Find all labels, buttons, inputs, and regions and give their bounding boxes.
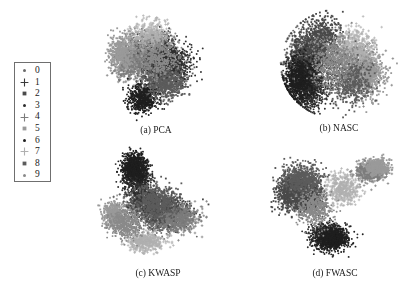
legend-item-7: 7 xyxy=(15,146,50,158)
caption-pca: (a) PCA xyxy=(92,125,220,135)
legend-marker-dot-icon xyxy=(18,65,31,76)
legend-item-0: 0 xyxy=(15,65,50,77)
scatter-plot-nasc xyxy=(276,2,402,126)
legend-label: 1 xyxy=(35,78,40,88)
legend-marker-square-icon xyxy=(18,88,31,99)
class-legend: 0123456789 xyxy=(14,62,51,182)
legend-label: 6 xyxy=(35,136,40,146)
scatter-plot-pca xyxy=(92,2,220,126)
legend-item-1: 1 xyxy=(15,77,50,89)
scatter-canvas-pca xyxy=(92,2,220,126)
scatter-plot-fwasc xyxy=(268,142,402,266)
caption-nasc: (b) NASC xyxy=(276,123,402,133)
scatter-plot-kwasp xyxy=(92,142,224,266)
scatter-canvas-kwasp xyxy=(92,142,224,266)
legend-marker-plus-icon xyxy=(18,146,31,157)
legend-label: 9 xyxy=(35,170,40,180)
scatter-canvas-fwasc xyxy=(268,142,402,266)
legend-marker-square-icon xyxy=(18,158,31,169)
legend-label: 8 xyxy=(35,159,40,169)
legend-item-6: 6 xyxy=(15,135,50,147)
legend-item-3: 3 xyxy=(15,100,50,112)
legend-item-2: 2 xyxy=(15,88,50,100)
legend-label: 0 xyxy=(35,66,40,76)
legend-label: 5 xyxy=(35,124,40,134)
legend-label: 2 xyxy=(35,89,40,99)
legend-marker-square-icon xyxy=(18,123,31,134)
legend-label: 7 xyxy=(35,147,40,157)
legend-item-5: 5 xyxy=(15,123,50,135)
legend-marker-plus-icon xyxy=(18,77,31,88)
legend-marker-dot-icon xyxy=(18,135,31,146)
caption-kwasp: (c) KWASP xyxy=(92,268,224,278)
legend-item-4: 4 xyxy=(15,111,50,123)
legend-label: 3 xyxy=(35,101,40,111)
legend-marker-plus-icon xyxy=(18,112,31,123)
legend-marker-dot-icon xyxy=(18,170,31,181)
legend-label: 4 xyxy=(35,112,40,122)
scatter-canvas-nasc xyxy=(276,2,402,126)
figure-panel: 0123456789 (a) PCA (b) NASC (c) KWASP (d… xyxy=(0,0,402,289)
legend-item-8: 8 xyxy=(15,158,50,170)
caption-fwasc: (d) FWASC xyxy=(268,268,402,278)
legend-item-9: 9 xyxy=(15,169,50,181)
legend-marker-dot-icon xyxy=(18,100,31,111)
